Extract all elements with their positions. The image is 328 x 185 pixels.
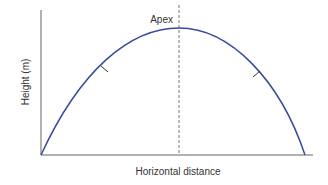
trajectory-diagram: Apex Horizontal distance Height (m): [0, 0, 328, 185]
y-axis-label: Height (m): [20, 59, 31, 106]
apex-label: Apex: [150, 14, 173, 25]
trajectory-curve: [41, 28, 305, 155]
x-axis-label: Horizontal distance: [135, 166, 220, 177]
tick-mark-right: [253, 71, 260, 77]
tick-mark-left: [101, 66, 108, 72]
